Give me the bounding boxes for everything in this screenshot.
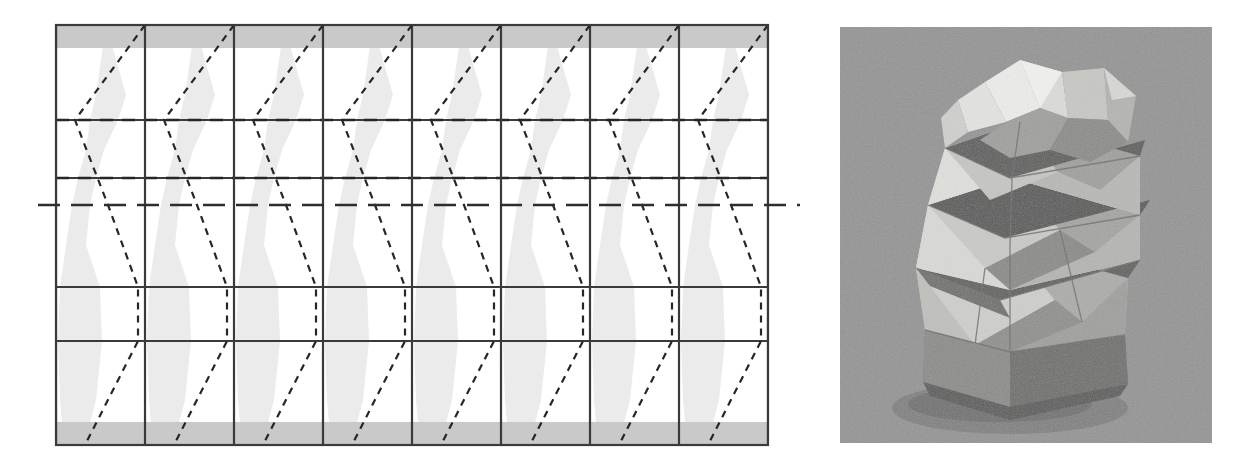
- folded-origami-tower-photo: [0, 0, 1244, 471]
- crown-petal-3: [1062, 68, 1108, 120]
- photo-content: [840, 27, 1212, 443]
- figure-root: [0, 0, 1244, 471]
